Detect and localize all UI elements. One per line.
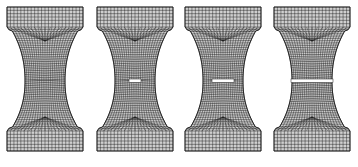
mesh-figure	[0, 0, 358, 167]
specimen-mesh-2	[97, 7, 173, 151]
crack	[212, 79, 234, 83]
specimen-mesh-1	[7, 7, 83, 151]
specimen-mesh-4	[274, 7, 350, 151]
crack	[129, 79, 141, 83]
specimen-mesh-3	[185, 7, 261, 151]
mesh-diagram	[0, 0, 358, 167]
crack	[291, 79, 333, 83]
